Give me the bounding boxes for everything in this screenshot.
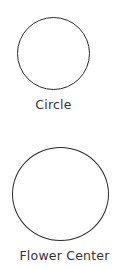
flower-center-shape[interactable] <box>12 147 109 241</box>
flower-center-label: Flower Center <box>0 248 129 263</box>
circle-label: Circle <box>0 97 107 112</box>
circle-shape[interactable] <box>17 17 90 90</box>
